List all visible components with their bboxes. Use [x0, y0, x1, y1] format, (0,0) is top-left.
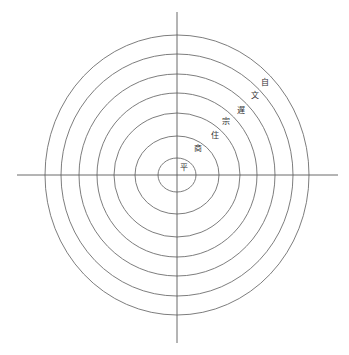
ring-label-7: 自 — [261, 79, 269, 87]
ring-label-1: 平 — [180, 164, 188, 172]
concentric-circle-diagram — [0, 0, 349, 355]
ring-label-3: 住 — [211, 132, 219, 140]
ring-label-6: 文 — [251, 92, 259, 100]
ring-label-2: 商 — [194, 145, 202, 153]
ring-label-4: 宗 — [222, 118, 230, 126]
ring-label-5: 遅 — [237, 107, 245, 115]
